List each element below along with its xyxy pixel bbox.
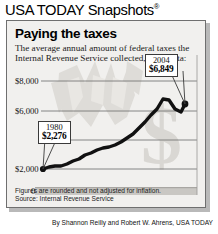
chart-headline: Paying the taxes bbox=[15, 26, 117, 41]
callout-2004: 2004 $6,849 bbox=[145, 54, 178, 77]
y-axis-label-6000: $6,000 bbox=[15, 106, 39, 116]
callout-1980: 1980 $2,276 bbox=[38, 121, 71, 144]
y-axis-label-8000: $8,000 bbox=[15, 76, 39, 86]
masthead-brand-text: USA TODAY Snapshots bbox=[5, 1, 154, 18]
snapshot-figure: USA TODAY Snapshots® bbox=[0, 0, 218, 234]
chart-panel: $ bbox=[6, 20, 206, 208]
callout-2004-value: $6,849 bbox=[149, 65, 174, 74]
byline-credit: By Shannon Reilly and Robert W. Ahrens, … bbox=[0, 219, 213, 226]
y-axis-label-2000: $2,000 bbox=[15, 164, 39, 174]
chart-footnotes: Figures are rounded and not adjusted for… bbox=[15, 187, 161, 202]
usa-today-snapshots-masthead: USA TODAY Snapshots® bbox=[5, 1, 159, 19]
footnote-source: Source: Internal Revenue Service bbox=[15, 195, 161, 203]
registered-trademark-icon: ® bbox=[154, 2, 159, 11]
footnote-figures-note: Figures are rounded and not adjusted for… bbox=[15, 187, 161, 195]
callout-1980-value: $2,276 bbox=[42, 132, 67, 141]
